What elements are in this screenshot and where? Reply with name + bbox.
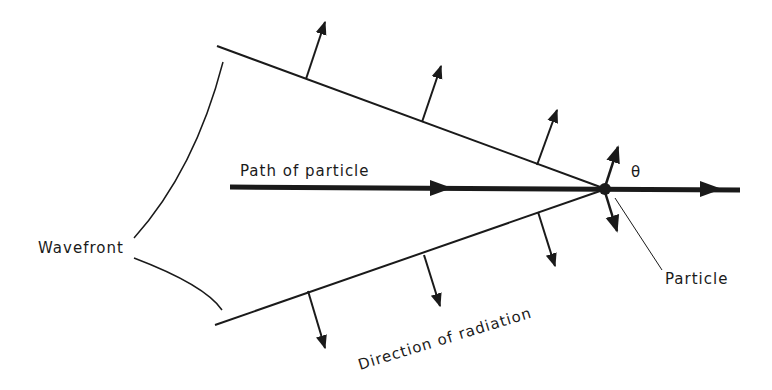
direction-of-radiation-label: Direction of radiation bbox=[356, 304, 534, 374]
path-arrowhead-2 bbox=[700, 181, 722, 197]
particle-arrow-down bbox=[605, 192, 617, 231]
path-arrowhead-1 bbox=[430, 180, 452, 196]
particle-path-line bbox=[230, 187, 740, 190]
radiation-arrow-upper-1 bbox=[306, 22, 325, 79]
cherenkov-diagram: Path of particle Wavefront Particle θ Di… bbox=[0, 0, 772, 390]
wavefront-leader-lower bbox=[134, 258, 222, 310]
lower-wavefront-line bbox=[215, 190, 603, 325]
particle-arrow-up bbox=[605, 147, 618, 187]
theta-label: θ bbox=[631, 163, 641, 181]
wavefront-leader-upper bbox=[134, 62, 223, 238]
radiation-arrow-lower-3 bbox=[538, 212, 555, 266]
particle-label: Particle bbox=[665, 270, 728, 288]
radiation-arrow-lower-2 bbox=[424, 255, 440, 306]
diagram-canvas: Path of particle Wavefront Particle θ Di… bbox=[0, 0, 772, 390]
radiation-arrow-upper-2 bbox=[422, 66, 441, 122]
path-of-particle-label: Path of particle bbox=[240, 162, 370, 180]
radiation-arrow-lower-1 bbox=[308, 291, 325, 348]
wavefront-label: Wavefront bbox=[38, 239, 124, 257]
particle-leader-line bbox=[615, 198, 662, 270]
radiation-arrow-upper-3 bbox=[537, 110, 557, 165]
particle-dot bbox=[599, 183, 611, 195]
